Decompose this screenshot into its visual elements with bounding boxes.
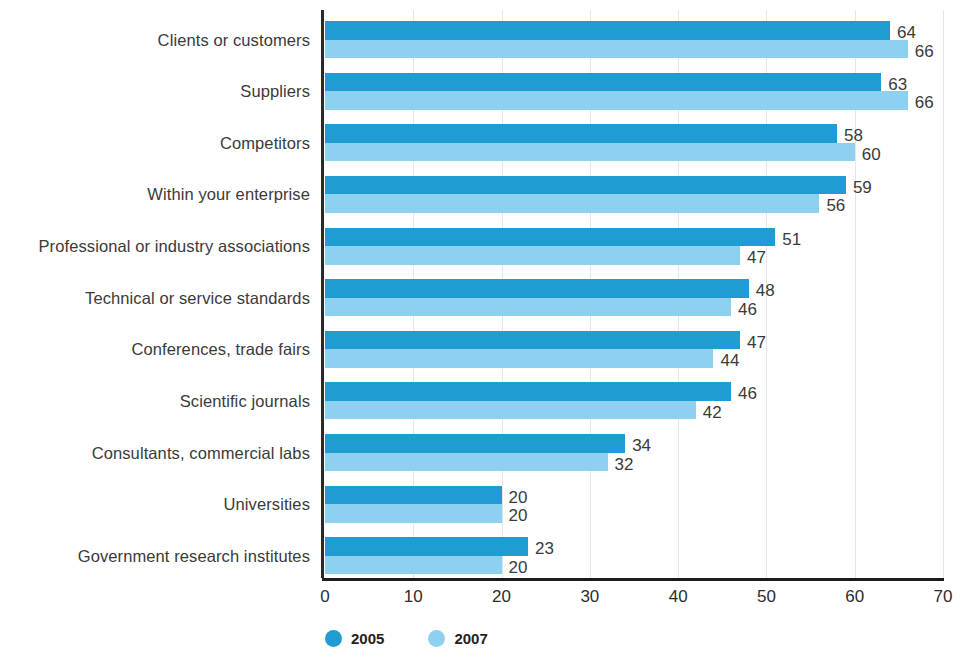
bar-2005-2 — [325, 124, 837, 143]
bar-value-label: 44 — [720, 352, 739, 369]
y-axis-line — [321, 10, 324, 578]
bar-value-label: 48 — [756, 282, 775, 299]
bar-value-label: 47 — [747, 249, 766, 266]
legend-item-2005[interactable]: 2005 — [325, 630, 384, 647]
plot-area — [325, 10, 943, 578]
category-label: Clients or customers — [158, 32, 310, 49]
bar-value-label: 32 — [615, 456, 634, 473]
x-tick-label: 50 — [757, 588, 776, 605]
bar-value-label: 20 — [509, 559, 528, 576]
x-tick-label: 40 — [669, 588, 688, 605]
bar-value-label: 59 — [853, 179, 872, 196]
x-tick-label: 10 — [404, 588, 423, 605]
category-label: Conferences, trade fairs — [132, 341, 311, 358]
x-tick-label: 30 — [580, 588, 599, 605]
category-label: Technical or service standards — [85, 290, 310, 307]
bar-2007-7 — [325, 401, 696, 420]
category-label: Scientific journals — [180, 393, 310, 410]
bar-2005-0 — [325, 21, 890, 40]
bar-2005-5 — [325, 279, 749, 298]
bar-2005-9 — [325, 486, 502, 505]
x-tick-label: 20 — [492, 588, 511, 605]
bar-value-label: 20 — [509, 489, 528, 506]
bar-value-label: 46 — [738, 385, 757, 402]
bar-2005-7 — [325, 382, 731, 401]
bar-2005-8 — [325, 434, 625, 453]
bar-value-label: 47 — [747, 334, 766, 351]
bar-value-label: 20 — [509, 507, 528, 524]
bar-value-label: 64 — [897, 24, 916, 41]
bar-value-label: 46 — [738, 301, 757, 318]
x-axis-line — [322, 578, 944, 581]
bar-2005-6 — [325, 331, 740, 350]
category-label: Within your enterprise — [147, 186, 310, 203]
bar-2007-4 — [325, 246, 740, 265]
legend: 2005 2007 — [325, 630, 488, 647]
bar-value-label: 23 — [535, 540, 554, 557]
category-label: Universities — [224, 496, 310, 513]
bar-value-label: 60 — [862, 146, 881, 163]
bar-2007-2 — [325, 143, 855, 162]
bar-2007-3 — [325, 194, 819, 213]
gridline — [943, 10, 944, 578]
bar-value-label: 63 — [888, 76, 907, 93]
category-label: Professional or industry associations — [39, 238, 311, 255]
bar-2005-4 — [325, 228, 775, 247]
x-tick-label: 0 — [320, 588, 329, 605]
bar-value-label: 58 — [844, 127, 863, 144]
bar-2005-1 — [325, 73, 881, 92]
legend-label: 2005 — [351, 631, 384, 646]
category-label: Suppliers — [240, 83, 310, 100]
x-tick-label: 70 — [934, 588, 953, 605]
bar-chart: Clients or customersSuppliersCompetitors… — [0, 0, 967, 659]
x-tick-label: 60 — [845, 588, 864, 605]
category-label: Consultants, commercial labs — [92, 445, 310, 462]
legend-swatch-icon — [428, 630, 445, 647]
bar-2007-6 — [325, 349, 713, 368]
legend-swatch-icon — [325, 630, 342, 647]
bar-2007-1 — [325, 91, 908, 110]
bar-2007-5 — [325, 298, 731, 317]
legend-item-2007[interactable]: 2007 — [428, 630, 487, 647]
bar-value-label: 56 — [826, 197, 845, 214]
bar-2005-10 — [325, 537, 528, 556]
legend-label: 2007 — [454, 631, 487, 646]
category-label: Competitors — [220, 135, 310, 152]
category-label: Government research institutes — [78, 548, 310, 565]
bar-2007-10 — [325, 556, 502, 575]
bar-value-label: 66 — [915, 94, 934, 111]
bar-value-label: 51 — [782, 231, 801, 248]
bar-2007-0 — [325, 40, 908, 59]
bar-value-label: 66 — [915, 43, 934, 60]
bar-value-label: 42 — [703, 404, 722, 421]
bar-value-label: 34 — [632, 437, 651, 454]
bar-2005-3 — [325, 176, 846, 195]
bar-2007-8 — [325, 453, 608, 472]
bar-2007-9 — [325, 504, 502, 523]
